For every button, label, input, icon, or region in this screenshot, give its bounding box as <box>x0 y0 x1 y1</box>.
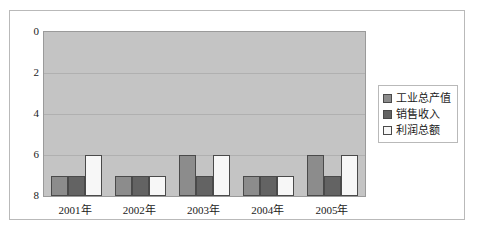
x-tick-label: 2001年 <box>59 201 92 217</box>
x-tick-label: 2005年 <box>315 201 348 217</box>
bar[interactable] <box>85 155 102 196</box>
bar[interactable] <box>277 176 294 197</box>
legend-swatch-icon <box>383 110 392 119</box>
bar-group <box>51 32 102 196</box>
bar[interactable] <box>213 155 230 196</box>
bar[interactable] <box>243 176 260 197</box>
legend-item[interactable]: 工业总产值 <box>383 90 451 106</box>
bar[interactable] <box>149 176 166 197</box>
bar[interactable] <box>115 176 132 197</box>
x-tick-label: 2004年 <box>251 201 284 217</box>
bar[interactable] <box>68 176 85 197</box>
legend-label: 销售收入 <box>396 109 440 120</box>
bar-group <box>243 32 294 196</box>
y-tick-label: 2 <box>15 67 39 78</box>
bar[interactable] <box>324 176 341 197</box>
legend-item[interactable]: 利润总额 <box>383 122 451 138</box>
bar[interactable] <box>179 155 196 196</box>
bar[interactable] <box>51 176 68 197</box>
legend-label: 工业总产值 <box>396 93 451 104</box>
x-tick-label: 2003年 <box>187 201 220 217</box>
x-axis: 2001年2002年2003年2004年2005年 <box>43 199 366 219</box>
legend-label: 利润总额 <box>396 125 440 136</box>
chart-legend: 工业总产值销售收入利润总额 <box>378 85 458 143</box>
bar[interactable] <box>307 155 324 196</box>
x-tick-label: 2002年 <box>123 201 156 217</box>
y-tick-label: 4 <box>15 108 39 119</box>
y-tick-label: 0 <box>15 26 39 37</box>
bar[interactable] <box>196 176 213 197</box>
bar[interactable] <box>132 176 149 197</box>
chart-frame: 02468 2001年2002年2003年2004年2005年 工业总产值销售收… <box>9 10 465 220</box>
plot-area <box>43 31 366 197</box>
y-axis: 02468 <box>10 31 39 197</box>
bar-group <box>115 32 166 196</box>
legend-item[interactable]: 销售收入 <box>383 106 451 122</box>
y-tick-label: 6 <box>15 149 39 160</box>
bar[interactable] <box>260 176 277 197</box>
y-tick-label: 8 <box>15 190 39 201</box>
bar-group <box>307 32 358 196</box>
bar-group <box>179 32 230 196</box>
legend-swatch-icon <box>383 94 392 103</box>
bar[interactable] <box>341 155 358 196</box>
legend-swatch-icon <box>383 126 392 135</box>
